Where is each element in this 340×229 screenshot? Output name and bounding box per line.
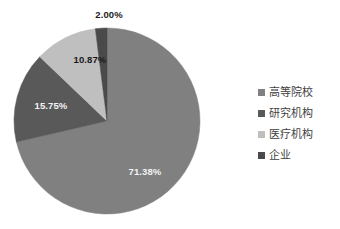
pie-slice-value-label-1: 71.38%: [129, 167, 162, 177]
legend-swatch-icon-2: [258, 110, 265, 117]
pie-chart-figure: 71.38%15.75%10.87%2.00% 高等院校研究机构医疗机构企业: [0, 0, 340, 229]
legend-item-label-1: 高等院校: [269, 87, 313, 98]
legend-item-label-2: 研究机构: [269, 108, 313, 119]
legend-swatch-icon-3: [258, 131, 265, 138]
pie-slice-value-label-2: 15.75%: [35, 101, 68, 111]
legend-item-1[interactable]: 高等院校: [258, 82, 340, 103]
legend-item-label-3: 医疗机构: [269, 129, 313, 140]
legend-swatch-icon-1: [258, 89, 265, 96]
pie-svg: [0, 0, 230, 229]
legend-item-4[interactable]: 企业: [258, 145, 340, 166]
legend-item-2[interactable]: 研究机构: [258, 103, 340, 124]
pie-plot-area: 71.38%15.75%10.87%2.00%: [0, 0, 230, 229]
chart-legend: 高等院校研究机构医疗机构企业: [258, 82, 340, 166]
legend-swatch-icon-4: [258, 152, 265, 159]
pie-slice-value-label-4: 2.00%: [95, 10, 122, 20]
pie-slice-value-label-3: 10.87%: [74, 55, 107, 65]
legend-item-label-4: 企业: [269, 150, 291, 161]
legend-item-3[interactable]: 医疗机构: [258, 124, 340, 145]
